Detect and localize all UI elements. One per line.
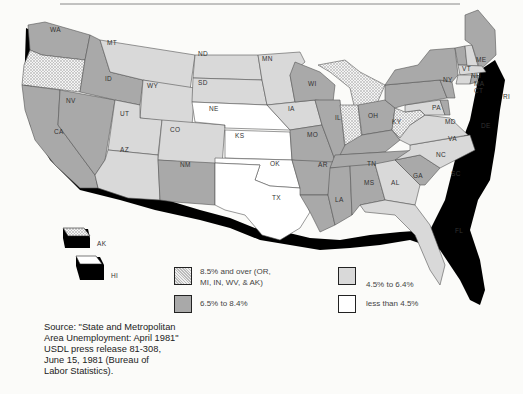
svg-text:CA: CA xyxy=(54,128,64,135)
svg-text:VA: VA xyxy=(448,135,457,142)
svg-text:NH: NH xyxy=(471,72,481,79)
svg-text:LA: LA xyxy=(335,196,344,203)
svg-text:AR: AR xyxy=(318,161,328,168)
legend-label-high: 8.5% and over (OR, MI, IN, WV, & AK) xyxy=(200,266,271,288)
svg-text:CO: CO xyxy=(170,126,180,133)
svg-text:WA: WA xyxy=(50,26,61,33)
svg-text:WY: WY xyxy=(147,82,158,89)
svg-text:WI: WI xyxy=(308,80,317,87)
svg-text:CT: CT xyxy=(474,87,483,94)
svg-text:ID: ID xyxy=(105,75,112,82)
svg-text:FL: FL xyxy=(455,227,463,234)
svg-text:UT: UT xyxy=(120,110,129,117)
svg-text:NV: NV xyxy=(66,97,76,104)
svg-text:MA: MA xyxy=(474,80,485,87)
svg-text:RI: RI xyxy=(503,93,510,100)
legend-swatch-mid-low xyxy=(338,267,356,285)
svg-text:MO: MO xyxy=(307,131,318,138)
svg-text:MD: MD xyxy=(445,118,456,125)
svg-text:VT: VT xyxy=(462,65,471,72)
legend-swatch-high xyxy=(174,267,192,285)
svg-text:MN: MN xyxy=(262,55,273,62)
svg-text:NC: NC xyxy=(436,151,446,158)
svg-text:AL: AL xyxy=(391,179,400,186)
svg-text:SD: SD xyxy=(198,79,208,86)
svg-text:TN: TN xyxy=(367,160,376,167)
svg-text:OH: OH xyxy=(368,112,378,119)
states xyxy=(22,10,496,285)
legend-label-mid-low: 4.5% to 6.4% xyxy=(366,279,414,290)
legend-label-low: less than 4.5% xyxy=(366,298,418,309)
svg-text:NY: NY xyxy=(443,76,453,83)
svg-text:DE: DE xyxy=(481,122,491,129)
state-ND[interactable] xyxy=(193,55,262,80)
legend-label-mid-high: 6.5% to 8.4% xyxy=(200,298,248,309)
svg-text:AK: AK xyxy=(97,240,107,247)
inset-hawaii[interactable]: HI xyxy=(76,256,118,280)
svg-text:KY: KY xyxy=(392,118,402,125)
svg-text:SC: SC xyxy=(451,170,461,177)
svg-text:MS: MS xyxy=(364,179,375,186)
svg-text:ME: ME xyxy=(476,56,487,63)
svg-text:GA: GA xyxy=(413,172,423,179)
legend-swatch-mid-high xyxy=(174,295,192,313)
source-note: Source: "State and Metropolitan Area Une… xyxy=(44,322,214,377)
inset-alaska[interactable]: AK xyxy=(63,228,107,248)
svg-text:NM: NM xyxy=(180,161,191,168)
svg-text:IA: IA xyxy=(288,105,295,112)
legend-swatch-low xyxy=(338,295,356,313)
svg-text:IL: IL xyxy=(335,114,341,121)
state-CT[interactable] xyxy=(456,75,472,84)
svg-text:PA: PA xyxy=(432,104,441,111)
svg-text:TX: TX xyxy=(272,194,281,201)
svg-text:NE: NE xyxy=(209,105,219,112)
svg-text:ND: ND xyxy=(198,50,208,57)
svg-text:AZ: AZ xyxy=(120,146,129,153)
svg-text:KS: KS xyxy=(235,132,245,139)
svg-text:HI: HI xyxy=(111,272,118,279)
svg-text:OK: OK xyxy=(270,160,280,167)
svg-text:MT: MT xyxy=(107,39,117,46)
